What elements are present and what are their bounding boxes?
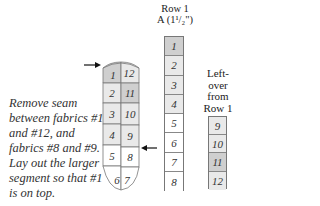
row1-cell-6: 6 (165, 133, 183, 152)
row1-cell-4: 4 (165, 95, 183, 114)
loop-left-column (103, 62, 121, 190)
loop-label-7: 7 (124, 174, 130, 186)
row1-cell-5: 5 (165, 114, 183, 133)
leftover-title-line: from (198, 91, 238, 103)
row1-subtitle: A (1¹/₂") (155, 14, 195, 25)
row1-title: Row 1 (155, 3, 195, 14)
loop-label-11: 11 (125, 87, 135, 99)
loop-right-column (121, 62, 139, 190)
loop-label-6: 6 (114, 174, 120, 186)
loop-label-5: 5 (109, 150, 115, 162)
row1-cell-7: 7 (165, 153, 183, 172)
row1-strip: 1 2 3 4 5 6 7 8 (164, 36, 184, 191)
leftover-cell-9: 9 (209, 117, 226, 135)
row1-cell-1: 1 (165, 37, 183, 56)
leftover-cell-10: 10 (209, 135, 226, 153)
leftover-header: Left- over from Row 1 (198, 68, 238, 114)
loop-label-10: 10 (125, 108, 137, 120)
arrow-seam-1-12-icon (84, 62, 101, 68)
leftover-title-line: Row 1 (198, 103, 238, 115)
row1-cell-8: 8 (165, 172, 183, 191)
leftover-cell-11: 11 (209, 153, 226, 171)
loop-label-9: 9 (127, 130, 133, 142)
loop-label-3: 3 (108, 108, 115, 120)
loop-label-12: 12 (124, 67, 136, 79)
row1-cell-2: 2 (165, 56, 183, 75)
loop-label-1: 1 (110, 69, 116, 81)
loop-label-4: 4 (109, 129, 115, 141)
row1-header: Row 1 A (1¹/₂") (155, 3, 195, 25)
leftover-strip: 9 10 11 12 (208, 116, 227, 189)
loop-label-2: 2 (109, 87, 115, 99)
loop-label-8: 8 (127, 151, 133, 163)
arrow-seam-8-9-icon (141, 145, 157, 151)
row1-cell-3: 3 (165, 76, 183, 95)
leftover-title-line: Left- (198, 68, 238, 80)
leftover-cell-12: 12 (209, 172, 226, 190)
